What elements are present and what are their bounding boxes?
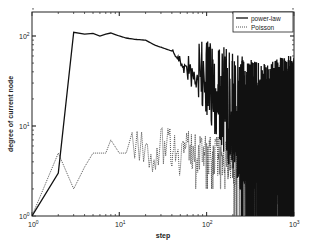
legend-label-poisson: Poisson — [251, 24, 275, 31]
x-axis-label: step — [156, 232, 170, 240]
y-axis-label: degree of current node — [7, 76, 15, 152]
chart-canvas: 100 101 102 103 100 101 102 step degree … — [0, 0, 309, 250]
x-tick-1: 101 — [115, 219, 126, 228]
x-tick-labels: 100 101 102 103 — [28, 219, 300, 228]
y-tick-0: 100 — [19, 211, 30, 220]
x-tick-3: 103 — [289, 219, 300, 228]
legend: power-law Poisson — [233, 12, 293, 32]
y-tick-labels: 100 101 102 — [19, 31, 30, 220]
x-tick-0: 100 — [28, 219, 39, 228]
legend-label-power-law: power-law — [251, 15, 281, 23]
x-tick-2: 102 — [202, 219, 213, 228]
y-tick-1: 101 — [19, 121, 30, 130]
y-tick-2: 102 — [19, 31, 30, 40]
